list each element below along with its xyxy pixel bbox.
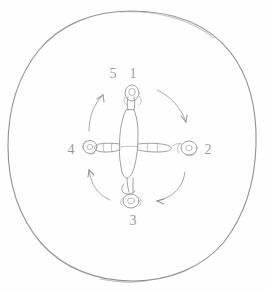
arrow-bottom-left <box>88 170 110 200</box>
arrow-top-right <box>157 90 187 122</box>
arrow-top-left <box>89 95 104 131</box>
cross-figure <box>83 85 197 208</box>
arrow-bottom-right <box>157 172 185 204</box>
sketch-page: 5 1 2 3 4 <box>0 0 267 292</box>
sketch-canvas <box>0 0 267 292</box>
